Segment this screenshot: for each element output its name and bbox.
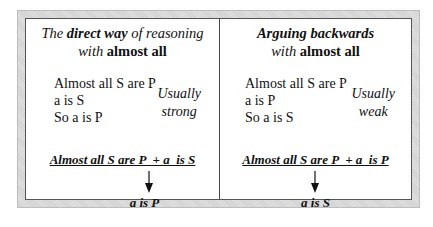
- premise-formula: Almost all S are P + a is S: [26, 152, 219, 168]
- panel-arguing-backwards: Arguing backwards with almost all Almost…: [220, 19, 411, 199]
- title-prefix: The: [41, 25, 66, 41]
- title-line2-prefix: with: [78, 43, 107, 59]
- argument-line: Almost all S are P: [54, 75, 156, 92]
- panel-title: Arguing backwards with almost all: [220, 24, 411, 60]
- panel-direct-reasoning: The direct way of reasoning with almost …: [26, 19, 219, 199]
- panel-title: The direct way of reasoning with almost …: [26, 24, 219, 60]
- conclusion: a is S: [220, 195, 411, 211]
- premise-text: Almost all S are P + a is P: [242, 152, 388, 167]
- argument-line: So a is S: [245, 109, 347, 126]
- title-emphasis: Arguing backwards: [257, 25, 374, 41]
- strength-line: Usually: [157, 85, 201, 103]
- argument-lines: Almost all S are P a is S So a is P: [54, 75, 156, 126]
- argument-line: Almost all S are P: [245, 75, 347, 92]
- title-suffix: of reasoning: [128, 25, 204, 41]
- down-arrow-icon: [144, 171, 154, 193]
- strength-line: strong: [157, 103, 201, 121]
- strength-label: Usually strong: [157, 85, 201, 121]
- strength-label: Usually weak: [351, 85, 395, 121]
- diagram-frame: The direct way of reasoning with almost …: [17, 10, 420, 208]
- title-line2-emphasis: almost all: [107, 43, 167, 59]
- premise-formula: Almost all S are P + a is P: [220, 152, 411, 168]
- title-line2-emphasis: almost all: [300, 43, 360, 59]
- strength-line: weak: [351, 103, 395, 121]
- argument-line: a is S: [54, 92, 156, 109]
- argument-lines: Almost all S are P a is P So a is S: [245, 75, 347, 126]
- strength-line: Usually: [351, 85, 395, 103]
- diagram-inner-box: The direct way of reasoning with almost …: [25, 18, 412, 200]
- premise-text: Almost all S are P + a is S: [50, 152, 196, 167]
- conclusion: a is P: [26, 195, 219, 211]
- title-emphasis: direct way: [67, 25, 128, 41]
- argument-line: So a is P: [54, 109, 156, 126]
- title-line2-prefix: with: [271, 43, 300, 59]
- argument-line: a is P: [245, 92, 347, 109]
- down-arrow-icon: [310, 171, 320, 193]
